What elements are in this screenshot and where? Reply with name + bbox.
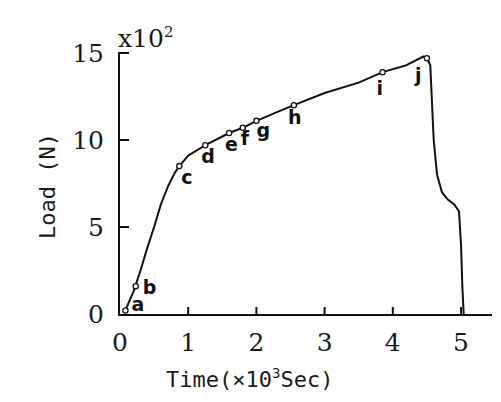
point-label-j: j [414,64,422,86]
y-axis-title: Load (N) [35,133,60,239]
y-tick-label: 10 [72,126,104,155]
y-tick-label: 0 [88,300,104,329]
point-label-h: h [288,106,302,128]
data-point-marker [123,308,128,313]
point-label-i: i [377,77,384,99]
x-tick-label: 1 [180,328,196,357]
load-time-chart: 051015 012345 x102 Load (N) Time(×103Sec… [0,0,501,402]
load-curve [123,57,463,315]
data-point-marker [380,70,385,75]
point-label-f: f [241,127,250,149]
y-multiplier-label: x102 [118,23,173,53]
y-tick-label: 5 [88,213,104,242]
x-tick-label: 4 [385,328,401,357]
data-point-marker [424,56,429,61]
point-label-d: d [201,145,215,167]
x-tick-label: 2 [248,328,264,357]
point-label-g: g [256,119,270,141]
point-label-e: e [225,133,238,155]
x-tick-label: 3 [317,328,333,357]
x-axis-title: Time(×103Sec) [166,365,333,392]
y-ticks: 051015 [72,39,129,329]
data-point-marker [133,284,138,289]
point-label-c: c [181,166,192,188]
x-tick-label: 0 [112,328,128,357]
point-label-b: b [143,276,157,298]
y-tick-label: 15 [72,39,104,68]
x-tick-label: 5 [453,328,469,357]
